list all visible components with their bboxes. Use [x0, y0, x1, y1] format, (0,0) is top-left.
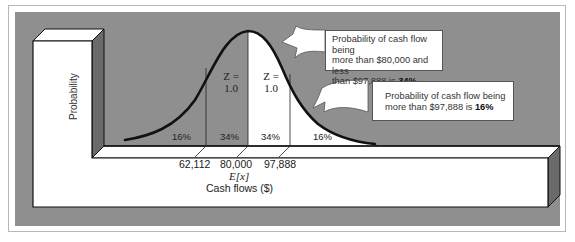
z-label-left: Z = 1.0 — [219, 70, 243, 94]
z-label-right: Z = 1.0 — [259, 70, 283, 94]
callout-line: more than $80,000 and less — [332, 55, 436, 76]
callout-34-percent: Probability of cash flow being more than… — [325, 30, 443, 71]
normal-distribution-diagram — [0, 0, 575, 242]
region-percent-1: 16% — [172, 131, 191, 142]
x-axis-label: Cash flows ($) — [206, 182, 273, 194]
z-value-text: 1.0 — [259, 82, 283, 94]
mean-label: E[x] — [229, 170, 249, 182]
callout-line: Probability of cash flow being — [332, 34, 436, 55]
z-value-text: 1.0 — [219, 82, 243, 94]
z-label-text: Z = — [219, 70, 243, 82]
region-percent-4: 16% — [313, 131, 332, 142]
callout-16-percent: Probability of cash flow being more than… — [372, 81, 514, 121]
block-side-face — [92, 29, 104, 158]
callout-line: Probability of cash flow being — [385, 91, 507, 102]
callout-line: more than $97,888 is 16% — [385, 102, 507, 113]
tick-label-97888: 97,888 — [264, 158, 296, 170]
callout-emphasis: 16% — [475, 102, 494, 112]
region-percent-2: 34% — [220, 131, 239, 142]
region-percent-3: 34% — [261, 131, 280, 142]
tick-label-80000: 80,000 — [220, 158, 252, 170]
callout-text: more than $97,888 is — [385, 102, 475, 112]
tick-label-62112: 62,112 — [179, 158, 210, 170]
z-label-text: Z = — [259, 70, 283, 82]
y-axis-label: Probability — [68, 73, 79, 120]
base-top-face — [92, 146, 560, 158]
